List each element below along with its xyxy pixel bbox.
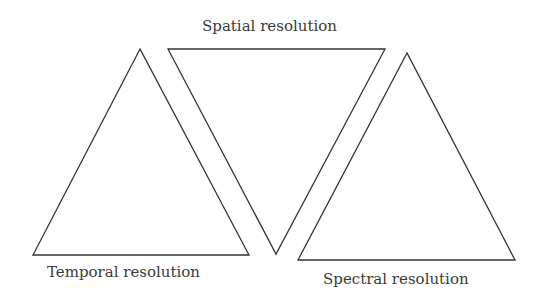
spatial-triangle xyxy=(168,49,385,254)
spectral-triangle xyxy=(298,53,515,260)
spatial-resolution-label: Spatial resolution xyxy=(202,17,337,35)
spectral-resolution-label: Spectral resolution xyxy=(323,270,469,288)
temporal-resolution-label: Temporal resolution xyxy=(47,263,200,281)
triangle-diagram xyxy=(0,0,542,306)
temporal-triangle xyxy=(33,49,249,255)
